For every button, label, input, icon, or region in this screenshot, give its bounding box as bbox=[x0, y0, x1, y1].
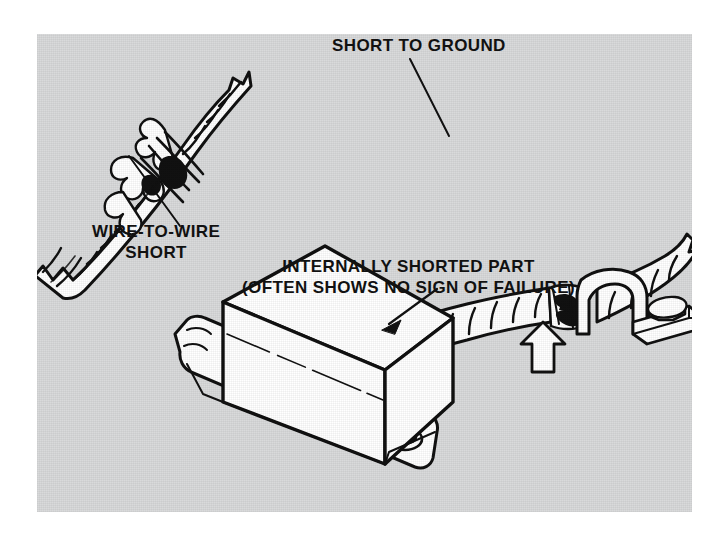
leader-line-short-to-ground bbox=[410, 59, 449, 136]
label-internally-shorted-line1: INTERNALLY SHORTED PART bbox=[242, 256, 575, 277]
label-internally-shorted-part: INTERNALLY SHORTED PART (OFTEN SHOWS NO … bbox=[242, 256, 575, 298]
label-wire-to-wire-line2: SHORT bbox=[92, 242, 220, 263]
diagram-panel: SHORT TO GROUND WIRE-TO-WIRE SHORT INTER… bbox=[37, 34, 692, 512]
label-wire-to-wire-short: WIRE-TO-WIRE SHORT bbox=[92, 221, 220, 263]
label-short-to-ground: SHORT TO GROUND bbox=[332, 35, 506, 56]
callout-arrow-up-hollow bbox=[521, 322, 565, 372]
label-wire-to-wire-line1: WIRE-TO-WIRE bbox=[92, 221, 220, 242]
bolt-head bbox=[648, 297, 687, 320]
label-internally-shorted-line2: (OFTEN SHOWS NO SIGN OF FAILURE) bbox=[242, 277, 575, 298]
figure-root: SHORT TO GROUND WIRE-TO-WIRE SHORT INTER… bbox=[0, 0, 718, 535]
illustration-wire-to-wire bbox=[37, 72, 251, 299]
